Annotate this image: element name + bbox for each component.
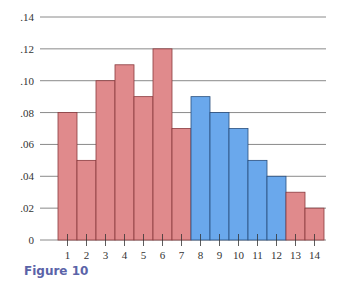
bar-12: [267, 176, 286, 240]
figure-caption: Figure 10: [24, 264, 88, 278]
bar-8: [191, 97, 210, 240]
x-tick-label: 2: [84, 249, 90, 261]
bar-11: [248, 160, 267, 240]
bar-9: [210, 113, 229, 240]
x-tick-label: 14: [309, 249, 321, 261]
bar-7: [172, 129, 191, 241]
y-tick-label: .04: [20, 170, 34, 182]
bar-10: [229, 129, 248, 241]
y-axis-labels: 0.02.04.06.08.10.12.14: [20, 11, 34, 246]
x-tick-label: 6: [160, 249, 166, 261]
bar-4: [115, 65, 134, 240]
y-tick-label: .06: [20, 138, 34, 150]
y-tick-label: .08: [20, 107, 34, 119]
bar-2: [77, 160, 96, 240]
x-tick-label: 5: [141, 249, 147, 261]
bar-3: [96, 81, 115, 240]
x-tick-label: 4: [122, 249, 128, 261]
x-tick-label: 13: [290, 249, 302, 261]
x-tick-label: 3: [103, 249, 109, 261]
x-tick-label: 9: [217, 249, 223, 261]
bar-5: [134, 97, 153, 240]
y-tick-label: .02: [20, 202, 34, 214]
x-tick-label: 7: [179, 249, 185, 261]
bar-13: [286, 192, 305, 240]
y-tick-label: 0: [29, 234, 35, 246]
y-tick-label: .12: [20, 43, 34, 55]
x-axis-labels: 1234567891011121314: [65, 249, 321, 261]
histogram-chart: 0.02.04.06.08.10.12.14 12345678910111213…: [0, 0, 344, 286]
x-tick-label: 11: [252, 249, 263, 261]
bar-6: [153, 49, 172, 240]
y-tick-label: .14: [20, 11, 34, 23]
x-tick-label: 12: [271, 249, 282, 261]
x-tick-label: 8: [198, 249, 204, 261]
y-tick-label: .10: [20, 75, 34, 87]
x-tick-label: 10: [233, 249, 245, 261]
bar-1: [58, 113, 77, 240]
x-tick-label: 1: [65, 249, 71, 261]
